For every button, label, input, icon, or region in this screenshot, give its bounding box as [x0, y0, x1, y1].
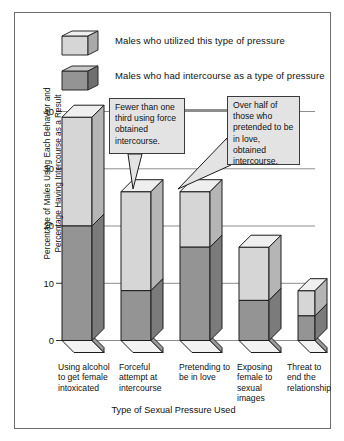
bar-group-alcohol — [62, 105, 104, 352]
y-tick-10: 10 — [28, 278, 54, 289]
y-tick-40: 40 — [28, 106, 54, 117]
x-category-exposing: Exposing female to sexual images — [237, 362, 281, 404]
x-axis-title: Type of Sexual Pressure Used — [15, 405, 332, 415]
bar-group-pretending — [180, 180, 222, 353]
y-tick-20: 20 — [28, 220, 54, 231]
chart-figure-frame: Males who utilized this type of pressure… — [14, 12, 331, 429]
annotation-force: Fewer than one third using force obtaine… — [109, 98, 185, 154]
annotation-force-text: Fewer than one third using force obtaine… — [115, 102, 176, 146]
bar-group-threat — [298, 279, 327, 353]
y-tick-30: 30 — [28, 163, 54, 174]
y-tick-0: 0 — [28, 335, 54, 346]
annotation-love: Over half of those who pretended to be i… — [227, 96, 300, 165]
x-category-alcohol: Using alcohol to get female intoxicated — [58, 362, 118, 393]
x-category-threat: Threat to end the relationship — [287, 362, 333, 393]
bar-group-forceful — [121, 180, 163, 353]
x-category-pretending: Pretending to be in love — [179, 362, 231, 383]
bar-group-exposing — [239, 235, 281, 352]
x-category-forceful: Forceful attempt at intercourse — [119, 362, 175, 393]
annotation-love-text: Over half of those who pretended to be i… — [233, 100, 293, 166]
